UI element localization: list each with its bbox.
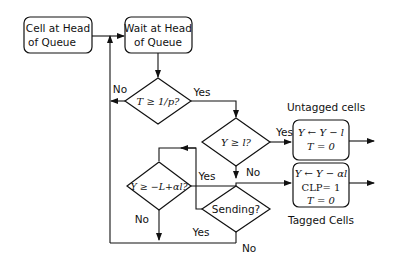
wait-head-line1: Wait at Head [124, 22, 192, 34]
decision-t-diamond: T ≥ 1/p? [125, 78, 191, 124]
label-yl-no: No [135, 213, 149, 225]
flowchart-diagram: Cell at Head of Queue Wait at Head of Qu… [0, 0, 394, 267]
decision-yl-label: Y ≥ −L+αl? [130, 181, 188, 192]
label-t-no: No [113, 83, 127, 95]
tagged-action-box: Y ← Y − αl CLP= 1 T = 0 [293, 163, 349, 207]
label-sending-no: No [242, 242, 256, 254]
wait-at-head-box: Wait at Head of Queue [124, 17, 192, 53]
decision-yl-diamond: Y ≥ −L+αl? [127, 162, 191, 210]
untagged-action-box: Y ← Y − l T = 0 [293, 120, 349, 160]
decision-y-diamond: Y ≥ l? [202, 118, 270, 166]
label-yl-yes: Yes [198, 170, 216, 182]
cell-head-line1: Cell at Head [26, 22, 90, 34]
label-t-yes: Yes [193, 86, 211, 98]
decision-sending-diamond: Sending? [202, 186, 270, 232]
decision-t-label: T ≥ 1/p? [137, 96, 181, 107]
arrow-t-yes [191, 101, 236, 117]
label-y-no: No [246, 166, 260, 178]
tagged-cells-label: Tagged Cells [287, 214, 354, 226]
untagged-cells-label: Untagged cells [287, 101, 365, 113]
label-y-yes: Yes [275, 126, 293, 138]
decision-y-label: Y ≥ l? [221, 137, 252, 148]
cell-at-head-box: Cell at Head of Queue [24, 17, 92, 53]
cell-head-line2: of Queue [28, 36, 76, 48]
decision-sending-label: Sending? [212, 203, 260, 215]
tagged-line2: CLP= 1 [302, 182, 341, 193]
tagged-line1: Y ← Y − αl [295, 168, 348, 179]
tagged-line3: T = 0 [307, 195, 335, 206]
wait-head-line2: of Queue [134, 36, 182, 48]
untagged-line2: T = 0 [307, 141, 335, 152]
arrow-yl-yes [191, 183, 291, 186]
untagged-line1: Y ← Y − l [298, 127, 344, 138]
label-sending-yes: Yes [192, 226, 210, 238]
